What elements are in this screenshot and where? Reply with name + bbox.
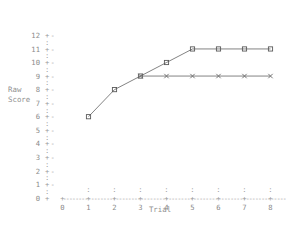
y-tick-dash: - [51, 180, 55, 189]
x-tick-mark: + [216, 194, 221, 203]
x-tick-label: 2 [112, 203, 116, 212]
y-tick-dash: - [51, 126, 55, 135]
y-tick-dash: - [51, 99, 55, 108]
x-tick-label: 1 [86, 203, 90, 212]
y-tick-dash: - [51, 45, 55, 54]
y-tick-label: 9 [36, 72, 40, 81]
x-tick-mark: + [112, 194, 117, 203]
x-tick-label: 7 [242, 203, 246, 212]
x-minor-mark: : [112, 185, 116, 194]
x-tick-mark: + [138, 194, 143, 203]
x-minor-mark: : [268, 185, 272, 194]
y-tick-dash: - [51, 112, 55, 121]
x-tick-mark: + [242, 194, 247, 203]
y-tick-dash: - [51, 85, 55, 94]
x-tick-label: 6 [216, 203, 220, 212]
y-axis: 0+:1+-:2+-:3+-:4+-:5+-:6+-:7+-:8+-:9+-:1… [31, 31, 54, 203]
y-tick-dash: - [51, 153, 55, 162]
y-tick-dash: - [51, 139, 55, 148]
x-tick-mark: + [190, 194, 195, 203]
y-tick-label: 3 [36, 153, 40, 162]
x-minor-mark: : [216, 185, 220, 194]
x-tick-mark: + [86, 194, 91, 203]
x-tick-label: 0 [60, 203, 64, 212]
raw-score-trial-chart: 0+:1+-:2+-:3+-:4+-:5+-:6+-:7+-:8+-:9+-:1… [0, 0, 300, 227]
y-tick-dash: - [51, 58, 55, 67]
y-tick-label: 5 [36, 126, 40, 135]
y-tick-label: 2 [36, 167, 40, 176]
x-minor-mark: : [164, 185, 168, 194]
y-tick-label: 4 [36, 139, 40, 148]
y-tick-label: 1 [36, 180, 40, 189]
y-tick-dash: - [51, 31, 55, 40]
x-minor-mark: : [242, 185, 246, 194]
x-tick-label: 5 [190, 203, 194, 212]
y-axis-title-line1: Raw [8, 85, 22, 94]
y-tick-label: 6 [36, 112, 40, 121]
x-tick-label: 8 [268, 203, 272, 212]
x-axis-rule: - [283, 194, 287, 203]
x-minor-mark: : [190, 185, 194, 194]
y-tick-dash: - [51, 72, 55, 81]
y-tick-mark: + [45, 31, 50, 40]
x-axis-title: Trial [149, 205, 171, 214]
y-tick-label: 12 [31, 31, 40, 40]
x-tick-mark: + [164, 194, 169, 203]
series-layer [86, 47, 272, 119]
x-tick-mark: + [268, 194, 273, 203]
x-tick-label: 3 [138, 203, 142, 212]
x-minor-mark: : [138, 185, 142, 194]
y-tick-label: 10 [31, 58, 40, 67]
y-axis-title-line2: Score [8, 95, 31, 104]
series-line-upper-series [89, 49, 271, 117]
x-axis: ----------------------------------------… [60, 185, 287, 212]
x-minor-mark: : [86, 185, 90, 194]
y-tick-label: 8 [36, 85, 40, 94]
y-tick-dash: - [51, 167, 55, 176]
x-tick-mark: + [60, 194, 65, 203]
y-tick-label: 7 [36, 99, 40, 108]
y-tick-label: 0 [36, 194, 40, 203]
y-tick-label: 11 [31, 45, 40, 54]
